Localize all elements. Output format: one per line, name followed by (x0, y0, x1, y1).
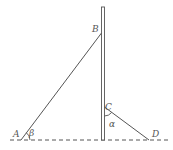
angle-alpha-arc (105, 112, 112, 116)
label-c: C (105, 102, 112, 112)
label-a: A (12, 129, 20, 139)
label-beta: β (28, 128, 34, 138)
label-d: D (151, 129, 159, 139)
label-b: B (91, 24, 99, 34)
geometry-diagram: B A β C α D (0, 0, 173, 150)
pole (102, 7, 105, 140)
label-alpha: α (109, 119, 115, 129)
segment-ab (21, 33, 102, 140)
